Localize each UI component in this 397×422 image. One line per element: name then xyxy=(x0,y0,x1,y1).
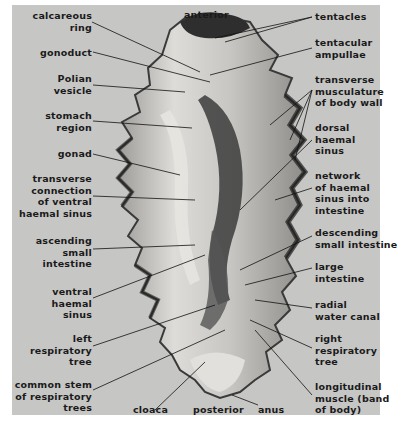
label-left-respiratory-tree: left respiratory tree xyxy=(30,333,92,368)
label-ascending-small-intestine: ascending small intestine xyxy=(36,235,92,270)
label-dorsal-haemal-sinus: dorsal haemal sinus xyxy=(315,122,355,157)
label-ventral-haemal-sinus: ventral haemal sinus xyxy=(52,286,92,321)
body-wall xyxy=(118,14,305,398)
label-cloaca: cloaca xyxy=(133,404,168,416)
label-tentacular-ampullae: tentacular ampullae xyxy=(315,37,372,60)
label-calcareous-ring: calcareous ring xyxy=(33,10,92,33)
label-right-respiratory-tree: right respiratory tree xyxy=(315,333,377,368)
label-posterior: posterior xyxy=(193,404,244,416)
label-tentacles: tentacles xyxy=(315,11,367,23)
label-transverse-connection: transverse connection of ventral haemal … xyxy=(19,173,92,219)
label-gonoduct: gonoduct xyxy=(40,47,92,59)
label-transverse-musculature: transverse musculature of body wall xyxy=(315,74,384,109)
label-common-stem: common stem of respiratory trees xyxy=(15,379,92,414)
label-descending-small-intestine: descending small intestine xyxy=(315,227,397,250)
label-polian-vesicle: Polian vesicle xyxy=(54,73,92,96)
label-anterior: anterior xyxy=(184,9,229,21)
label-anus: anus xyxy=(258,404,284,416)
label-gonad: gonad xyxy=(58,148,92,160)
label-large-intestine: large intestine xyxy=(315,261,364,284)
label-radial-water-canal: radial water canal xyxy=(315,299,380,322)
label-stomach-region: stomach region xyxy=(45,110,92,133)
label-longitudinal-muscle: longitudinal muscle (band of body) xyxy=(315,381,389,416)
label-network-haemal-sinus: network of haemal sinus into intestine xyxy=(315,170,370,216)
